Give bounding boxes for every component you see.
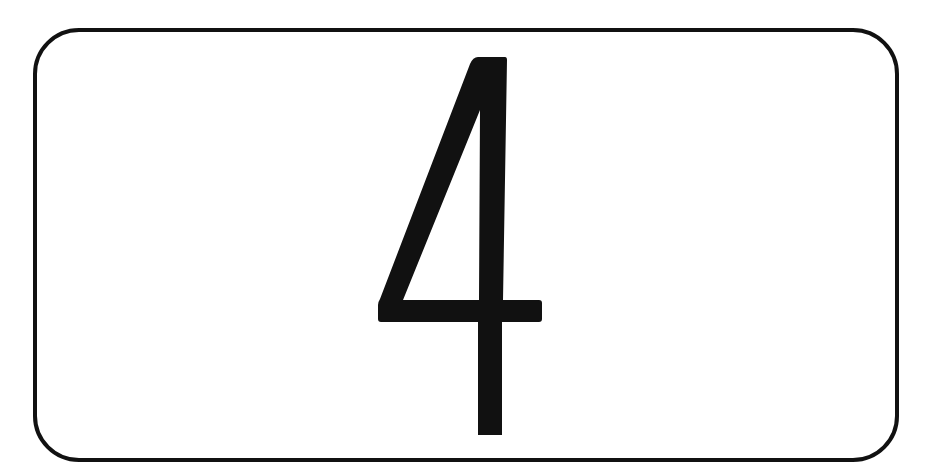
- digit-four-shape: [378, 57, 542, 435]
- digit-four-glyph: [0, 0, 946, 475]
